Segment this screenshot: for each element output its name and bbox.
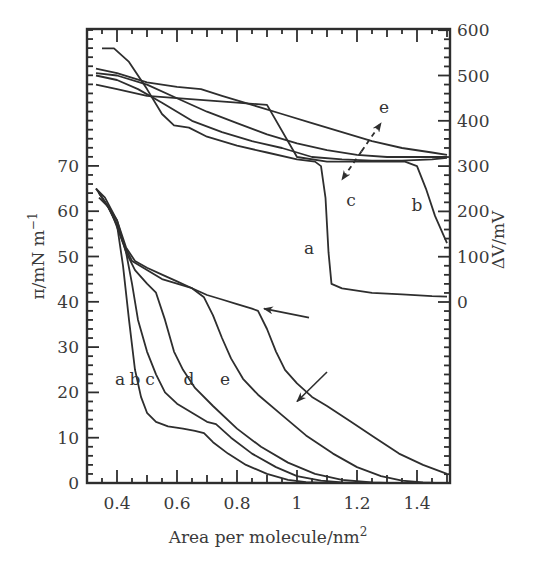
y-right-tick-label: 200: [457, 201, 489, 221]
y-right-tick-label: 600: [457, 20, 489, 40]
y-right-tick-label: 400: [457, 111, 489, 131]
potential-curve-b: [96, 85, 447, 244]
curve-labels: abcdeabce: [115, 97, 423, 389]
y-right-tick-label: 500: [457, 66, 489, 86]
plot-frame: [87, 29, 450, 483]
y-left-tick-label: 0: [68, 473, 79, 493]
x-tick-label: 0.8: [223, 493, 250, 513]
y-axis-right-title: ΔV/mV: [488, 210, 508, 269]
y-axis-left-title: π/mN m−1: [26, 212, 48, 299]
y-left-tick-label: 30: [57, 337, 79, 357]
chart: 0.40.60.811.21.4010203040506070010020030…: [0, 0, 540, 573]
potential-label-e: e: [379, 97, 389, 117]
isotherm-curve-a: [99, 198, 327, 483]
dashed-arrow-to-e: [362, 123, 382, 151]
y-right-tick-label: 300: [457, 156, 489, 176]
isotherm-label-a: a: [115, 369, 125, 389]
x-tick-label: 0.6: [163, 493, 190, 513]
isotherm-curve-d: [99, 193, 435, 483]
x-tick-label: 1: [292, 493, 303, 513]
y-right-tick-label: 0: [457, 292, 468, 312]
axis-ticks: [87, 29, 450, 483]
isotherm-curve-b: [96, 189, 357, 483]
potential-label-c: c: [346, 190, 356, 210]
isotherm-curve-c: [99, 193, 387, 483]
potential-curve-c: [96, 76, 447, 161]
annotation-arrow-1: [264, 309, 309, 318]
data-curves: [96, 48, 447, 483]
y-left-tick-label: 40: [57, 292, 79, 312]
y-left-tick-label: 50: [57, 247, 79, 267]
potential-label-a: a: [304, 238, 314, 258]
potential-curve-d: [96, 73, 447, 157]
x-tick-label: 1.2: [343, 493, 370, 513]
isotherm-label-c: c: [145, 369, 155, 389]
x-tick-label: 0.4: [103, 493, 130, 513]
y-right-tick-label: 100: [457, 247, 489, 267]
annotation-arrows: [264, 123, 381, 401]
potential-curve-a: [102, 48, 447, 296]
y-left-tick-label: 60: [57, 201, 79, 221]
y-left-tick-label: 10: [57, 428, 79, 448]
y-left-tick-label: 70: [57, 156, 79, 176]
potential-curve-e: [96, 69, 447, 155]
isotherm-label-e: e: [220, 369, 230, 389]
isotherm-curve-e: [96, 189, 447, 474]
x-tick-label: 1.4: [403, 493, 430, 513]
axis-tick-labels: 0.40.60.811.21.4010203040506070010020030…: [57, 20, 489, 513]
x-axis-title: Area per molecule/nm2: [168, 525, 368, 547]
potential-label-b: b: [412, 195, 423, 215]
isotherm-label-b: b: [130, 369, 141, 389]
isotherm-label-d: d: [184, 369, 195, 389]
y-left-tick-label: 20: [57, 382, 79, 402]
